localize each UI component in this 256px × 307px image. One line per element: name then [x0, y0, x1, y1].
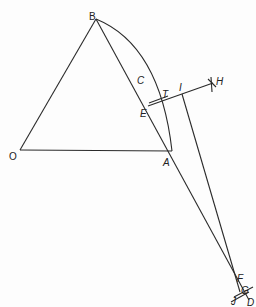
label-G: G [241, 285, 249, 296]
arc-tick-H2 [211, 77, 212, 92]
label-A: A [162, 157, 170, 168]
construction-figure: O A B C E T I H F G D J [0, 0, 256, 307]
label-T: T [162, 89, 169, 100]
label-H: H [216, 76, 224, 87]
label-E: E [140, 108, 147, 119]
line-BD [96, 19, 249, 300]
label-I: I [179, 82, 182, 93]
diagram-canvas: O A B C E T I H F G D J [0, 0, 256, 307]
label-J: J [230, 296, 237, 307]
label-B: B [89, 11, 96, 22]
label-F: F [237, 273, 244, 284]
label-C: C [137, 75, 145, 86]
segment-OB [20, 19, 96, 150]
segment-OA [20, 150, 172, 151]
label-D: D [247, 297, 254, 307]
label-O: O [9, 151, 17, 162]
